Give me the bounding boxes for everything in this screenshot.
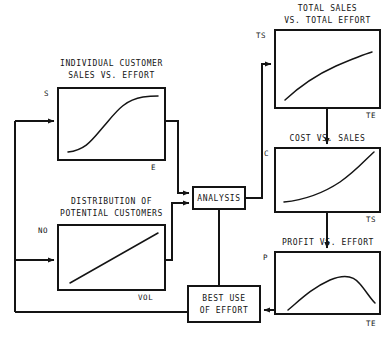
- axis-label-e: E: [151, 162, 156, 173]
- axis-label-te-total-effort: TE: [366, 110, 376, 121]
- curve-concave-rising: [285, 52, 372, 100]
- axis-label-no: NO: [38, 225, 48, 236]
- title-individual-customer-line1: INDIVIDUAL CUSTOMER: [58, 58, 165, 69]
- node-best-use: [188, 286, 260, 322]
- title-profit-vs-effort: PROFIT VS. EFFORT: [272, 237, 384, 248]
- diagram-svg: [0, 0, 392, 340]
- node-analysis-label: ANALYSIS: [193, 193, 245, 204]
- diagram-canvas: INDIVIDUAL CUSTOMER SALES VS. EFFORT S E…: [0, 0, 392, 340]
- title-individual-customer-line2: SALES VS. EFFORT: [58, 70, 165, 81]
- link-analysis-to-total-sales: [245, 64, 271, 198]
- title-distribution-line2: POTENTIAL CUSTOMERS: [52, 208, 171, 219]
- axis-label-ts-total-sales: TS: [256, 30, 266, 41]
- curve-inverted-u: [288, 277, 375, 310]
- axis-label-c: C: [264, 148, 269, 159]
- axis-label-te-profit: TE: [366, 318, 376, 329]
- box-profit-vs-effort: [275, 252, 380, 314]
- axis-label-vol: VOL: [138, 292, 153, 303]
- box-individual-customer: [58, 88, 165, 160]
- axis-label-ts-cost: TS: [366, 214, 376, 225]
- title-total-sales-line1: TOTAL SALES: [275, 3, 380, 14]
- title-distribution-line1: DISTRIBUTION OF: [52, 196, 171, 207]
- axis-label-s: S: [44, 88, 49, 99]
- node-best-use-label-line2: OF EFFORT: [188, 305, 260, 316]
- link-individual-customer-to-analysis: [165, 121, 189, 193]
- box-total-sales: [275, 30, 380, 108]
- title-cost-vs-sales: COST VS. SALES: [275, 133, 380, 144]
- node-best-use-label-line1: BEST USE: [188, 293, 260, 304]
- curve-sigmoid: [68, 96, 158, 152]
- curve-linear-rising: [70, 233, 158, 283]
- title-total-sales-line2: VS. TOTAL EFFORT: [268, 15, 387, 26]
- box-cost-vs-sales: [275, 148, 380, 212]
- axis-label-p: P: [263, 252, 268, 263]
- curve-convex-rising: [284, 152, 374, 202]
